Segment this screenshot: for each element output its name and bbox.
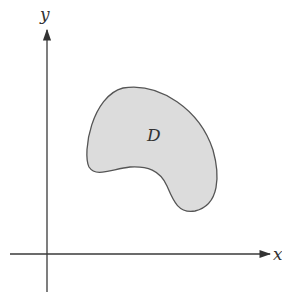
y-axis-label: y [39, 4, 50, 24]
region-label: D [146, 125, 161, 145]
x-axis-label: x [273, 244, 282, 264]
region-d [87, 87, 217, 211]
coordinate-diagram: y x D [0, 0, 282, 304]
